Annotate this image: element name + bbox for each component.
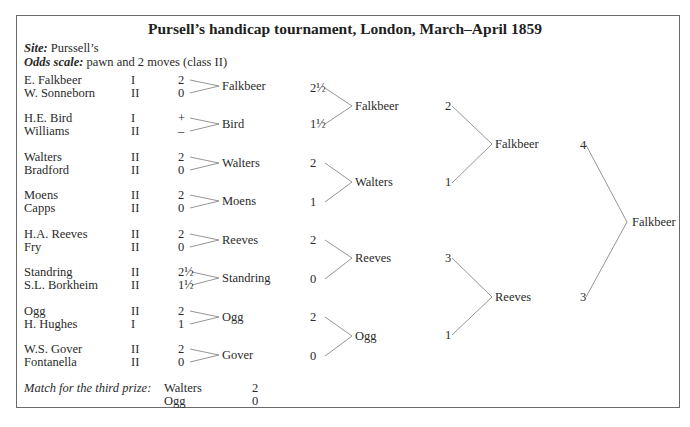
r2-score: 1½ [310,118,326,131]
match-winner: Ogg [222,311,244,324]
r2-score: 0 [310,350,316,363]
r3-score: 1 [445,329,451,342]
match-winner: Standring [222,272,271,285]
player-score: 0 [252,395,258,408]
player-score: 0 [178,87,184,100]
third-prize-label: Match for the third prize: [24,382,151,395]
r3-winner: Reeves [495,291,531,304]
player-name: H. Hughes [24,318,77,331]
r3-winner: Falkbeer [495,138,539,151]
r3-score: 2 [445,100,451,113]
player-class: II [131,164,139,177]
match-winner: Moens [222,195,256,208]
r2-winner: Ogg [355,330,377,343]
player-class: II [131,356,139,369]
player-name: Fontanella [24,356,77,369]
odds-line: Odds scale: pawn and 2 moves (class II) [24,55,227,70]
player-class: II [131,241,139,254]
r3-score: 1 [445,176,451,189]
r2-winner: Walters [355,176,393,189]
player-score: 1 [178,318,184,331]
player-score: 1½ [178,279,194,292]
player-score: 0 [178,241,184,254]
site-value: Purssell’s [48,41,99,55]
champion: Falkbeer [632,216,676,229]
player-score: 0 [178,202,184,215]
site-label: Site: [24,41,48,55]
site-line: Site: Purssell’s [24,41,99,56]
player-class: II [131,87,139,100]
r2-score: 1 [310,196,316,209]
r2-winner: Falkbeer [355,100,399,113]
player-class: II [131,279,139,292]
r2-winner: Reeves [355,252,391,265]
player-class: II [131,202,139,215]
player-name: Ogg [164,395,186,408]
match-winner: Falkbeer [222,80,266,93]
match-winner: Reeves [222,234,258,247]
player-score: 0 [178,356,184,369]
player-class: I [131,318,135,331]
odds-label: Odds scale: [24,55,83,69]
player-score: 0 [178,164,184,177]
final-score: 4 [580,139,586,152]
r2-score: 2 [310,311,316,324]
player-class: II [131,125,139,138]
match-winner: Bird [222,118,244,131]
r2-score: 2 [310,157,316,170]
player-name: Fry [24,241,41,254]
match-winner: Gover [222,349,253,362]
player-name: S.L. Borkheim [24,279,98,292]
match-winner: Walters [222,157,260,170]
player-score: – [178,125,184,138]
odds-value: pawn and 2 moves (class II) [83,55,227,69]
player-name: Bradford [24,164,69,177]
r2-score: 0 [310,273,316,286]
r3-score: 3 [445,252,451,265]
final-score: 3 [580,291,586,304]
player-name: Williams [24,125,69,138]
player-name: Capps [24,202,55,215]
page-title: Pursell’s handicap tournament, London, M… [0,20,690,38]
bracket-frame [16,15,680,408]
r2-score: 2½ [310,82,326,95]
r2-score: 2 [310,234,316,247]
player-name: W. Sonneborn [24,87,95,100]
